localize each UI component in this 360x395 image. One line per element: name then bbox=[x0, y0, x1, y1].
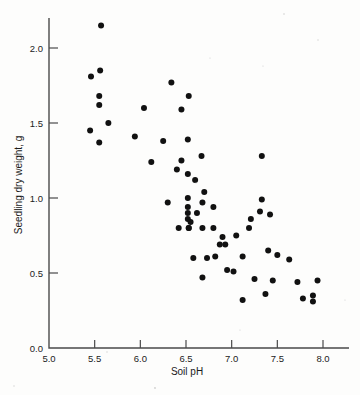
y-tick-label: 0.0 bbox=[30, 343, 43, 354]
data-point bbox=[262, 291, 268, 297]
data-point bbox=[201, 189, 207, 195]
data-point bbox=[222, 242, 228, 248]
scan-speck bbox=[283, 13, 285, 15]
data-point bbox=[97, 68, 103, 74]
data-point bbox=[310, 293, 316, 299]
data-point bbox=[252, 276, 258, 282]
data-point bbox=[148, 159, 154, 165]
y-tick-label: 0.5 bbox=[30, 268, 43, 279]
data-point bbox=[315, 278, 321, 284]
data-point bbox=[185, 210, 191, 216]
scan-speck bbox=[154, 387, 156, 389]
scan-speck bbox=[344, 299, 345, 300]
data-point bbox=[210, 225, 216, 231]
data-point bbox=[186, 225, 192, 231]
data-point bbox=[257, 209, 263, 215]
data-point bbox=[220, 234, 226, 240]
data-point bbox=[185, 137, 191, 143]
data-point bbox=[96, 93, 102, 99]
x-tick-label: 5.5 bbox=[88, 353, 101, 364]
x-tick-label: 5.0 bbox=[42, 353, 55, 364]
data-point bbox=[199, 153, 205, 159]
scan-speck bbox=[262, 65, 263, 66]
data-point bbox=[199, 225, 205, 231]
data-point bbox=[98, 23, 104, 29]
data-point bbox=[240, 297, 246, 303]
scan-speck bbox=[239, 329, 240, 330]
x-tick-label: 6.0 bbox=[134, 353, 147, 364]
data-point bbox=[259, 197, 265, 203]
scan-speck bbox=[195, 182, 196, 183]
plot-canvas: 5.05.56.06.57.07.58.0 0.00.51.01.52.0 So… bbox=[0, 0, 360, 395]
data-point bbox=[265, 248, 271, 254]
data-point bbox=[190, 255, 196, 261]
y-tick-label: 1.5 bbox=[30, 118, 43, 129]
data-point bbox=[286, 257, 292, 263]
data-point bbox=[294, 279, 300, 285]
data-points bbox=[87, 23, 320, 305]
data-point bbox=[178, 107, 184, 113]
x-axis-title: Soil pH bbox=[171, 366, 203, 377]
y-tick-labels: 0.00.51.01.52.0 bbox=[30, 43, 43, 354]
y-axis-title: Seedling dry weight, g bbox=[13, 136, 24, 234]
data-point bbox=[233, 233, 239, 239]
data-point bbox=[274, 252, 280, 258]
data-point bbox=[194, 210, 200, 216]
data-point bbox=[178, 158, 184, 164]
data-point bbox=[96, 102, 102, 108]
data-point bbox=[248, 216, 254, 222]
scan-speck bbox=[13, 385, 14, 386]
data-point bbox=[96, 140, 102, 146]
data-point bbox=[186, 93, 192, 99]
x-tick-label: 6.5 bbox=[179, 353, 192, 364]
data-point bbox=[267, 212, 273, 218]
data-point bbox=[310, 299, 316, 305]
data-point bbox=[185, 171, 191, 177]
data-point bbox=[105, 120, 111, 126]
scatter-plot-figure: 5.05.56.06.57.07.58.0 0.00.51.01.52.0 So… bbox=[0, 0, 360, 395]
data-point bbox=[230, 269, 236, 275]
data-point bbox=[217, 242, 223, 248]
data-point bbox=[300, 296, 306, 302]
data-point bbox=[168, 80, 174, 86]
x-tick-label: 8.0 bbox=[316, 353, 329, 364]
scan-speck bbox=[317, 39, 318, 40]
data-point bbox=[192, 177, 198, 183]
data-point bbox=[204, 255, 210, 261]
data-point bbox=[270, 278, 276, 284]
scan-artifacts bbox=[13, 13, 345, 389]
data-point bbox=[240, 254, 246, 260]
data-point bbox=[259, 153, 265, 159]
x-tick-label: 7.5 bbox=[271, 353, 284, 364]
data-point bbox=[199, 200, 205, 206]
data-point bbox=[174, 167, 180, 173]
data-point bbox=[188, 219, 194, 225]
data-point bbox=[246, 225, 252, 231]
data-point bbox=[185, 204, 191, 210]
data-point bbox=[88, 74, 94, 80]
y-tick-label: 1.0 bbox=[30, 193, 43, 204]
data-point bbox=[165, 200, 171, 206]
data-point bbox=[185, 195, 191, 201]
scan-speck bbox=[106, 351, 107, 352]
data-point bbox=[176, 225, 182, 231]
data-point bbox=[141, 105, 147, 111]
x-tick-labels: 5.05.56.06.57.07.58.0 bbox=[42, 353, 329, 364]
data-point bbox=[199, 275, 205, 281]
x-tick-label: 7.0 bbox=[225, 353, 238, 364]
data-point bbox=[132, 134, 138, 140]
y-tick-label: 2.0 bbox=[30, 43, 43, 54]
data-point bbox=[87, 128, 93, 134]
data-point bbox=[212, 254, 218, 260]
data-point bbox=[210, 204, 216, 210]
scan-speck bbox=[209, 57, 210, 58]
data-point bbox=[160, 138, 166, 144]
data-point bbox=[224, 267, 230, 273]
